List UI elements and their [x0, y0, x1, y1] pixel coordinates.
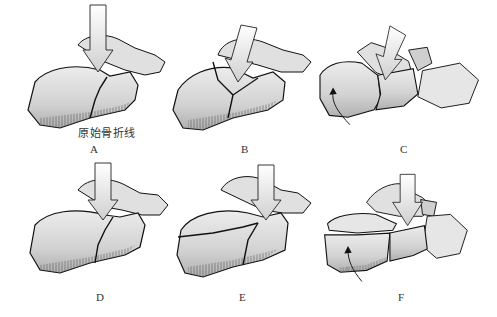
panel-c-label: C: [400, 143, 407, 155]
panel-a-label: A: [90, 143, 98, 155]
panel-e: E: [163, 155, 328, 313]
forefoot-bones: [423, 214, 468, 258]
talus-bone: [78, 180, 168, 215]
superior-fragment: [327, 214, 396, 233]
panel-a-caption: 原始骨折线: [78, 124, 136, 140]
calcaneus-illustration-e: [163, 155, 328, 313]
panel-d-label: D: [96, 291, 104, 303]
calcaneus-illustration-d: [10, 155, 175, 313]
panel-c: C: [320, 0, 485, 158]
panel-f: F: [320, 155, 485, 313]
forefoot-bones: [418, 63, 479, 108]
panel-f-label: F: [398, 291, 404, 303]
calcaneus-anterior: [390, 226, 427, 261]
panel-e-label: E: [239, 291, 246, 303]
panel-d: D: [10, 155, 175, 313]
panel-a: 原始骨折线 A: [10, 0, 175, 158]
calcaneus-anterior: [376, 69, 418, 110]
calcaneus-posterior: [320, 62, 381, 117]
panel-b-label: B: [241, 143, 248, 155]
calcaneus-illustration-b: [163, 0, 328, 158]
navicular-bone: [409, 47, 432, 70]
calcaneus-illustration-f: [320, 155, 485, 313]
calcaneus-illustration-c: [320, 0, 485, 158]
panel-b: B: [163, 0, 328, 158]
